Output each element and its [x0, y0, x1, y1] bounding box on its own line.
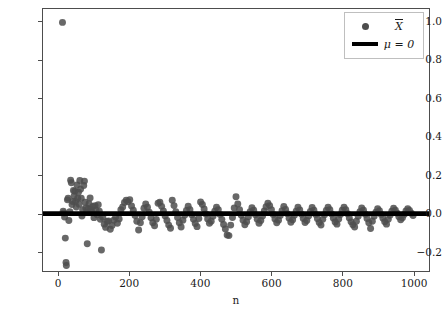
data-point: [84, 240, 91, 247]
data-point: [63, 262, 70, 269]
data-point: [62, 235, 69, 242]
y-tick-label: 0.2: [408, 170, 442, 181]
data-point: [171, 202, 178, 209]
data-point: [137, 219, 144, 226]
data-point: [87, 194, 94, 201]
x-tick-mark: [271, 272, 272, 276]
y-tick-mark: [38, 21, 42, 22]
data-point: [227, 222, 234, 229]
data-point: [95, 201, 102, 208]
y-tick-mark: [38, 98, 42, 99]
data-point: [59, 19, 66, 26]
y-tick-mark: [38, 137, 42, 138]
x-tick-label: 1000: [384, 278, 442, 289]
y-tick-mark: [38, 175, 42, 176]
data-point: [116, 216, 123, 223]
x-tick-label: 0: [28, 278, 88, 289]
x-tick-mark: [200, 272, 201, 276]
legend-line-icon: [350, 42, 380, 47]
x-tick-label: 400: [170, 278, 230, 289]
data-point: [126, 196, 133, 203]
legend-label-xbar: X: [380, 20, 418, 33]
x-tick-label: 600: [242, 278, 302, 289]
data-point: [225, 232, 232, 239]
y-tick-mark: [38, 60, 42, 61]
data-point: [81, 178, 88, 185]
y-tick-label: −0.2: [408, 247, 442, 258]
x-bar-symbol: X: [395, 20, 403, 33]
figure: −0.20.00.20.40.60.81.0 02004006008001000…: [0, 0, 442, 319]
data-point: [65, 217, 72, 224]
legend-entry-xbar: X: [350, 17, 418, 35]
data-point: [233, 193, 240, 200]
x-axis-label: n: [42, 295, 430, 306]
data-point: [98, 246, 105, 253]
data-point: [167, 225, 174, 232]
data-point: [135, 227, 142, 234]
data-point: [153, 216, 160, 223]
legend-entry-mu: μ = 0: [350, 35, 418, 53]
y-tick-mark: [38, 214, 42, 215]
data-point: [367, 225, 374, 232]
y-tick-label: 0.6: [408, 93, 442, 104]
x-tick-label: 800: [313, 278, 373, 289]
legend-label-mu: μ = 0: [380, 38, 418, 51]
data-point: [151, 222, 158, 229]
data-point: [178, 224, 185, 231]
x-tick-mark: [58, 272, 59, 276]
legend-marker-icon: [350, 23, 380, 30]
x-tick-mark: [414, 272, 415, 276]
x-tick-mark: [342, 272, 343, 276]
x-tick-label: 200: [99, 278, 159, 289]
y-tick-label: 0.0: [408, 208, 442, 219]
data-point: [194, 223, 201, 230]
y-tick-mark: [38, 252, 42, 253]
x-tick-mark: [129, 272, 130, 276]
legend: X μ = 0: [344, 12, 424, 59]
y-tick-label: 0.4: [408, 131, 442, 142]
